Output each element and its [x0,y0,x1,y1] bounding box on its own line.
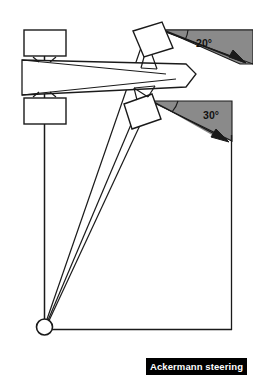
figure-root: 20° 30° [0,0,253,391]
turn-centre-circle [37,319,53,335]
right-rear-wheel-steered [124,94,161,129]
figure-caption: Ackermann steering [146,358,247,375]
ackermann-steering-diagram: 20° 30° [0,0,253,391]
left-front-wheel [24,30,66,56]
angle-label-20: 20° [196,37,212,49]
angle-label-30: 30° [203,109,219,121]
angle-wedge-30 [152,101,232,142]
radius-line-inner [46,108,138,325]
left-rear-wheel [24,98,66,124]
chassis-body [22,60,196,95]
radius-line-mid [47,108,148,325]
